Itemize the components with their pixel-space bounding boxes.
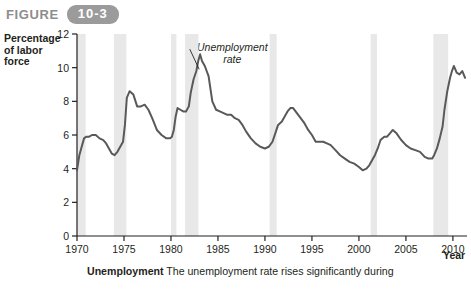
y-tick-label: 0 (63, 230, 69, 242)
x-tick-label: 1985 (206, 243, 230, 255)
caption-text: The unemployment rate rises significantl… (164, 265, 394, 277)
x-tick-label: 2010 (441, 243, 465, 255)
y-tick-label: 4 (63, 163, 69, 175)
caption-lead: Unemployment (87, 265, 164, 277)
line-chart: 0246810121970197519801985199019952000200… (0, 0, 471, 290)
x-tick-label: 1970 (65, 243, 89, 255)
y-tick-label: 12 (57, 28, 69, 40)
x-tick-label: 1990 (253, 243, 277, 255)
x-tick-label: 1975 (112, 243, 136, 255)
x-tick-label: 1995 (300, 243, 324, 255)
x-tick-label: 2005 (394, 243, 418, 255)
y-tick-label: 10 (57, 62, 69, 74)
figure-caption: Unemployment The unemployment rate rises… (87, 265, 467, 278)
y-tick-label: 8 (63, 95, 69, 107)
y-tick-label: 2 (63, 196, 69, 208)
recession-band (77, 34, 86, 236)
x-tick-label: 1980 (159, 243, 183, 255)
y-tick-label: 6 (63, 129, 69, 141)
x-tick-label: 2000 (347, 243, 371, 255)
recession-band (371, 34, 377, 236)
